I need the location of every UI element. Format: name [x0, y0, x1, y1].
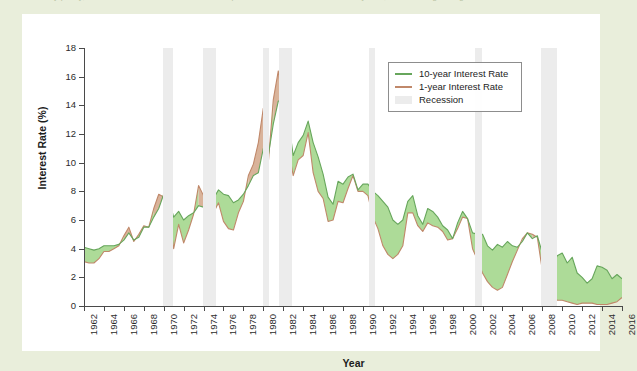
y-axis-title: Interest Rate (%) — [36, 88, 48, 208]
x-tick — [184, 306, 185, 311]
caption-text: monetary policy, and business conditions… — [22, 0, 510, 1]
x-tick-label: 1966 — [128, 314, 139, 335]
x-tick — [502, 306, 503, 311]
spread-fill-positive — [283, 101, 522, 290]
x-tick — [204, 306, 205, 311]
plot-area — [84, 48, 622, 306]
legend-swatch-one-year-line — [395, 86, 412, 88]
x-tick — [423, 306, 424, 311]
x-tick-label: 2014 — [606, 314, 617, 335]
legend-item-ten-year: 10-year Interest Rate — [395, 67, 515, 80]
x-tick-label: 2004 — [506, 314, 517, 335]
recession-band — [263, 48, 269, 306]
y-tick — [79, 105, 84, 106]
x-tick-label: 1998 — [447, 314, 458, 335]
x-tick — [283, 306, 284, 311]
x-axis-title: Year — [84, 357, 623, 369]
x-tick-label: 2012 — [586, 314, 597, 335]
x-tick — [403, 306, 404, 311]
x-tick — [124, 306, 125, 311]
y-tick-label: 4 — [36, 243, 76, 254]
x-tick — [303, 306, 304, 311]
x-tick-label: 1996 — [427, 314, 438, 335]
y-tick-label: 2 — [36, 271, 76, 282]
x-tick — [582, 306, 583, 311]
y-tick-label: 6 — [36, 214, 76, 225]
recession-band — [203, 48, 216, 306]
spread-fill-negative — [124, 227, 134, 241]
x-tick-label: 1974 — [208, 314, 219, 335]
x-tick-label: 2008 — [546, 314, 557, 335]
x-tick — [104, 306, 105, 311]
x-tick — [542, 306, 543, 311]
y-tick — [79, 249, 84, 250]
plot-canvas — [84, 48, 622, 306]
y-tick — [79, 77, 84, 78]
recession-band — [163, 48, 173, 306]
x-tick-label: 2000 — [467, 314, 478, 335]
x-tick — [164, 306, 165, 311]
x-tick — [243, 306, 244, 311]
x-tick-label: 1982 — [287, 314, 298, 335]
x-tick — [84, 306, 85, 311]
x-tick — [363, 306, 364, 311]
x-tick-label: 1978 — [247, 314, 258, 335]
x-tick — [483, 306, 484, 311]
x-tick-label: 1962 — [88, 314, 99, 335]
y-tick-label: 0 — [36, 300, 76, 311]
chart-legend: 10-year Interest Rate 1-year Interest Ra… — [388, 62, 522, 112]
recession-band — [541, 48, 557, 306]
x-tick-label: 1988 — [347, 314, 358, 335]
x-tick-label: 2010 — [566, 314, 577, 335]
recession-band — [369, 48, 376, 306]
x-tick-label: 2006 — [526, 314, 537, 335]
x-tick — [263, 306, 264, 311]
y-tick-label: 16 — [36, 71, 76, 82]
x-tick — [522, 306, 523, 311]
legend-label-one-year: 1-year Interest Rate — [419, 81, 503, 92]
x-tick-label: 1972 — [188, 314, 199, 335]
x-tick — [562, 306, 563, 311]
x-tick-label: 1964 — [108, 314, 119, 335]
x-tick — [602, 306, 603, 311]
y-tick — [79, 277, 84, 278]
x-tick-label: 1970 — [168, 314, 179, 335]
x-tick — [463, 306, 464, 311]
x-tick-label: 1976 — [227, 314, 238, 335]
x-tick — [443, 306, 444, 311]
y-tick — [79, 220, 84, 221]
x-tick-label: 1990 — [367, 314, 378, 335]
legend-item-recession: Recession — [395, 93, 515, 106]
legend-swatch-ten-year-line — [395, 73, 412, 75]
x-tick-label: 1980 — [267, 314, 278, 335]
y-tick — [79, 48, 84, 49]
y-tick — [79, 134, 84, 135]
x-tick-label: 2016 — [626, 314, 637, 335]
figure-card: 024681012141618 196219641966196819701972… — [22, 14, 600, 351]
x-tick-label: 1968 — [148, 314, 159, 335]
legend-item-one-year: 1-year Interest Rate — [395, 80, 515, 93]
x-tick-label: 1992 — [387, 314, 398, 335]
x-tick-label: 1986 — [327, 314, 338, 335]
y-tick — [79, 163, 84, 164]
x-tick — [223, 306, 224, 311]
recession-band — [279, 48, 292, 306]
x-tick-label: 1994 — [407, 314, 418, 335]
x-tick — [383, 306, 384, 311]
legend-label-recession: Recession — [419, 94, 463, 105]
x-tick — [323, 306, 324, 311]
figure-caption-clipped: monetary policy, and business conditions… — [0, 0, 618, 14]
y-tick-label: 18 — [36, 42, 76, 53]
x-tick — [622, 306, 623, 311]
x-tick-label: 1984 — [307, 314, 318, 335]
x-tick — [144, 306, 145, 311]
x-tick-label: 2002 — [487, 314, 498, 335]
legend-swatch-recession-band — [395, 96, 412, 104]
y-tick — [79, 191, 84, 192]
legend-label-ten-year: 10-year Interest Rate — [419, 68, 508, 79]
x-tick — [343, 306, 344, 311]
y-axis-line — [84, 48, 85, 307]
